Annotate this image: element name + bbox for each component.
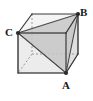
vertex-dot-a <box>64 71 68 75</box>
vertex-label-b: B <box>80 7 87 18</box>
vertex-label-a: A <box>62 80 70 91</box>
cube-figure: A B C <box>0 0 93 101</box>
vertex-label-c: C <box>5 27 13 38</box>
vertex-dot-c <box>16 31 20 35</box>
